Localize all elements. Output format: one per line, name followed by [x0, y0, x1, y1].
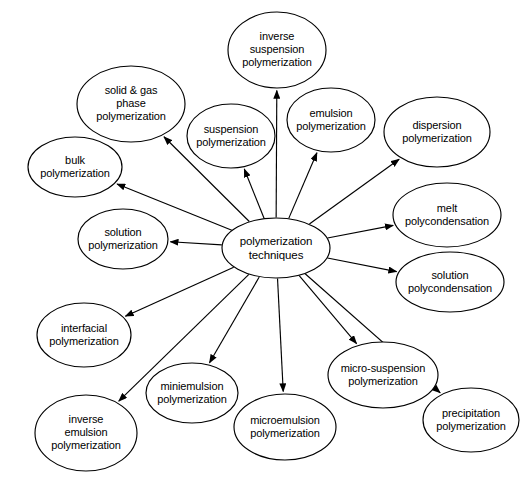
node-interfacial-polymerization[interactable] [37, 303, 131, 367]
node-solution-polymerization[interactable] [78, 209, 168, 269]
edge-center-to-microemulsion-polymerization [278, 278, 284, 391]
edge-center-to-suspension-polymerization [244, 169, 264, 218]
node-inverse-emulsion-polymerization[interactable] [35, 395, 137, 471]
node-solid-gas-phase-polymerization[interactable] [77, 66, 185, 142]
node-solution-polycondensation[interactable] [396, 252, 504, 312]
node-inverse-suspension-polymerization[interactable] [228, 12, 326, 88]
edge-center-to-solution-polymerization [170, 242, 221, 245]
edge-center-to-inverse-suspension-polymerization [276, 91, 277, 218]
node-precipitation-polymerization[interactable] [423, 388, 519, 452]
edge-center-to-dispersion-polymerization [309, 159, 399, 224]
diagram-canvas [0, 0, 529, 495]
edge-center-to-miniemulsion-polymerization [210, 277, 260, 363]
node-melt-polycondensation[interactable] [393, 183, 501, 247]
edge-center-to-melt-polycondensation [328, 225, 394, 238]
node-bulk-polymerization[interactable] [28, 137, 122, 197]
edge-center-to-emulsion-polymerization [289, 153, 317, 219]
nodes-layer [28, 12, 519, 471]
concept-map-diagram: polymerization techniquessolid & gas pha… [0, 0, 529, 495]
edge-center-to-micro-suspension-polymerization [299, 276, 356, 344]
node-emulsion-polymerization[interactable] [287, 88, 375, 152]
edge-center-to-interfacial-polymerization [125, 267, 233, 316]
node-miniemulsion-polymerization[interactable] [146, 363, 238, 423]
node-suspension-polymerization[interactable] [187, 104, 275, 168]
node-micro-suspension-polymerization[interactable] [328, 342, 438, 408]
node-microemulsion-polymerization[interactable] [234, 394, 336, 460]
node-dispersion-polymerization[interactable] [384, 97, 490, 167]
center-node-center[interactable] [222, 218, 330, 278]
edge-center-to-solution-polycondensation [327, 258, 396, 272]
